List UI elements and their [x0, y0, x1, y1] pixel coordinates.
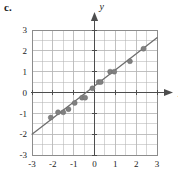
y-axis-tick-labels: -3-2-10123: [20, 25, 28, 160]
x-tick-label: 2: [134, 159, 139, 169]
y-tick-label: 2: [23, 46, 28, 56]
y-tick-label: -2: [20, 129, 28, 139]
y-tick-label: 3: [23, 25, 28, 35]
axis-titles: xy: [99, 1, 179, 99]
axis-arrowheads: [91, 12, 173, 96]
y-tick-label: 1: [23, 67, 28, 77]
x-tick-label: 1: [113, 159, 118, 169]
scatter-plot: -3-2-10123 -3-2-10123 xy: [0, 0, 178, 174]
y-axis-title: y: [99, 1, 105, 12]
x-axis-title: x: [177, 88, 178, 99]
y-tick-label: -1: [20, 109, 28, 119]
x-tick-label: -1: [70, 159, 78, 169]
y-tick-label: -3: [20, 150, 28, 160]
x-tick-label: -3: [28, 159, 36, 169]
x-axis-tick-labels: -3-2-10123: [28, 159, 160, 169]
part-label: c.: [4, 2, 12, 13]
figure-container: c. -3-2-10123 -3-2-10123 xy: [0, 0, 178, 174]
y-tick-label: 0: [23, 88, 28, 98]
x-tick-label: 3: [155, 159, 160, 169]
x-tick-label: -2: [49, 159, 57, 169]
x-tick-label: 0: [92, 159, 97, 169]
